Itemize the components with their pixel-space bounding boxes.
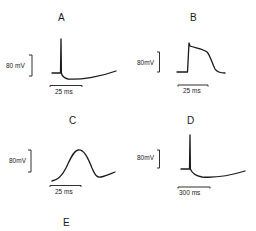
figure-canvas: A 80 mV 25 ms B 80mV 25 ms C 80mV 25 ms … [0,0,256,231]
panel-a: A 80 mV 25 ms [6,12,116,95]
panel-label-c: C [69,115,76,126]
time-scale-label-b: 25 ms [183,87,201,94]
time-scale-bar-a [50,86,82,88]
time-scale-label-d: 300 ms [179,189,201,196]
trace-c [52,150,115,181]
panel-c: C 80mV 25 ms [9,115,115,195]
voltage-scale-label-d: 80mV [137,154,155,161]
panel-d: D 80mV 300 ms [137,115,245,196]
panel-label-a: A [58,12,65,23]
panel-label-d: D [187,115,194,126]
time-scale-bar-c [50,186,81,188]
time-scale-label-a: 25 ms [55,88,73,95]
voltage-scale-label-a: 80 mV [6,62,25,69]
time-scale-label-c: 25 ms [55,188,73,195]
voltage-scale-bar-a [29,55,32,76]
voltage-scale-bar-b [157,52,160,72]
panel-label-b: B [190,12,197,23]
panel-label-e: E [63,217,70,228]
trace-d [181,135,245,177]
voltage-scale-label-b: 80mV [137,59,155,66]
voltage-scale-bar-c [28,150,31,172]
trace-a [52,39,116,79]
trace-b [177,43,225,73]
panel-b: B 80mV 25 ms [137,12,225,94]
voltage-scale-label-c: 80mV [9,157,27,164]
voltage-scale-bar-d [157,150,160,168]
